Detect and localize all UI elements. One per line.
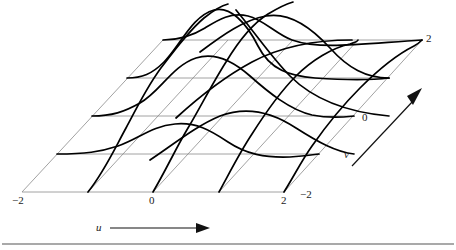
v-axis-arrow-label: v xyxy=(344,149,349,160)
surface-mesh-curves xyxy=(57,2,422,192)
u-axis-min-label: −2 xyxy=(12,195,24,206)
u-axis-arrow-label: u xyxy=(96,222,102,233)
figure-canvas: −2 0 2 −2 0 2 u v xyxy=(0,0,456,250)
mesh-curve-ridge-b xyxy=(236,10,389,116)
v-axis-mid-label: 0 xyxy=(362,112,368,123)
u-axis-max-label: 2 xyxy=(281,195,287,206)
v-axis-min-label: −2 xyxy=(300,189,312,200)
v-axis-max-label: 2 xyxy=(426,33,432,44)
axis-arrows xyxy=(110,88,422,233)
u-arrow-head xyxy=(196,223,210,233)
v-arrow-head xyxy=(407,88,422,105)
u-axis-mid-label: 0 xyxy=(149,195,155,206)
mesh-curve-u-0 xyxy=(153,2,293,192)
surface-plot-svg xyxy=(0,0,456,250)
v-arrow-shaft xyxy=(352,100,414,166)
